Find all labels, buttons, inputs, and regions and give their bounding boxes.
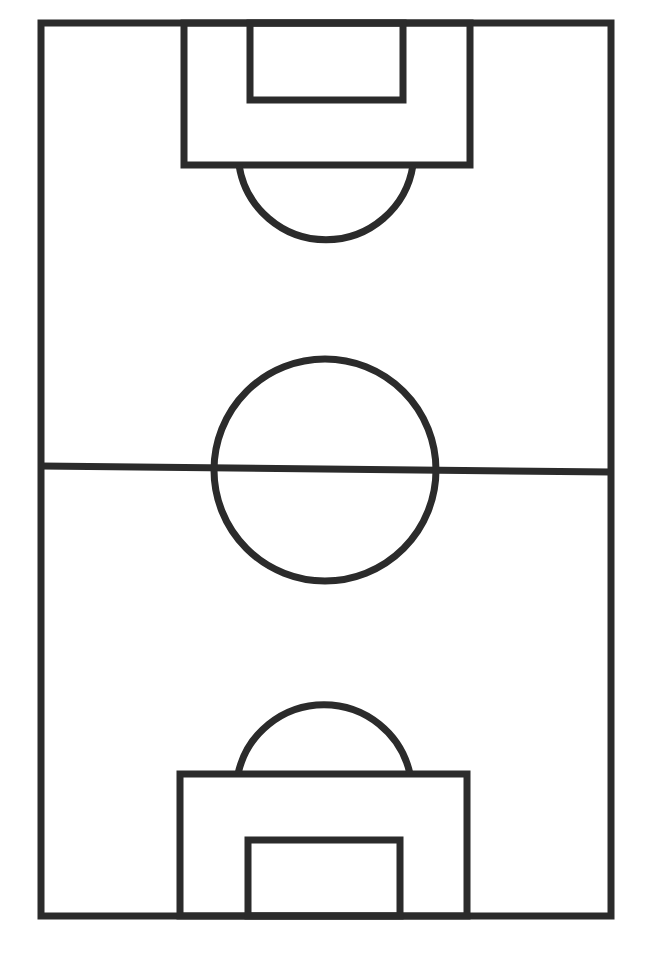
pitch-canvas [0,0,655,963]
pitch-background [0,0,655,963]
